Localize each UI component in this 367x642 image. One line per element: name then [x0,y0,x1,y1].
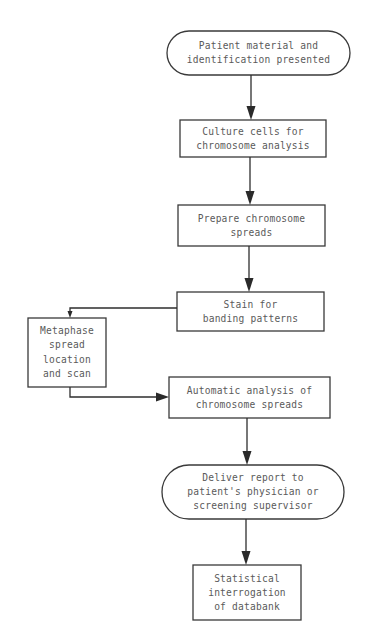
label-line: screening supervisor [193,499,313,513]
node-prepare-label: Prepare chromosome spreads [178,205,325,246]
edge-metaphase-automatic [70,387,169,402]
label-line: Stain for [224,298,278,312]
node-stain-label: Stain for banding patterns [177,292,324,331]
node-statistical-label: Statistical interrogation of databank [193,565,301,620]
label-line: spreads [231,226,273,240]
node-deliver-label: Deliver report to patient's physician or… [162,465,344,519]
edge-stain-metaphase [68,308,178,318]
edge-patient-culture [247,75,256,120]
label-line: Statistical [214,572,280,586]
arrowhead-icon [245,278,254,292]
label-line: Automatic analysis of [187,384,313,398]
node-metaphase-label: Metaphase spread location and scan [28,318,106,387]
edge-automatic-deliver [243,418,252,465]
label-line: Patient material and [199,39,319,53]
label-line: patient's physician or [187,485,318,499]
node-patient-label: Patient material and identification pres… [167,31,350,75]
arrowhead-icon [68,311,73,318]
label-line: spread [49,338,85,353]
node-culture-label: Culture cells for chromosome analysis [180,120,326,157]
label-line: identification presented [187,53,330,67]
arrowhead-icon [247,106,256,120]
label-line: Metaphase [40,324,94,339]
label-line: and scan [43,367,91,382]
node-automatic-label: Automatic analysis of chromosome spreads [169,377,330,418]
arrowhead-icon [246,191,255,205]
label-line: Culture cells for [202,125,304,139]
label-line: chromosome analysis [196,139,310,153]
label-line: chromosome spreads [196,398,304,412]
label-line: of databank [214,600,280,614]
edge-prepare-stain [245,246,254,292]
arrowhead-icon [243,451,252,465]
edge-deliver-statistical [242,519,251,565]
label-line: location [43,353,91,368]
edge-culture-prepare [246,157,255,205]
label-line: interrogation [208,586,286,600]
label-line: banding patterns [203,312,299,326]
label-line: Prepare chromosome [198,212,306,226]
label-line: Deliver report to [202,471,304,485]
arrowhead-icon [156,393,169,402]
arrowhead-icon [242,551,251,565]
